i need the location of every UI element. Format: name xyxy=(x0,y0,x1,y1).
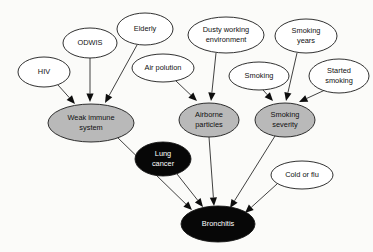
node-lung[interactable]: Lungcancer xyxy=(135,142,191,176)
node-shape-smkyears[interactable] xyxy=(275,19,337,53)
edge-line xyxy=(251,184,277,207)
node-airborne[interactable]: Airborneparticles xyxy=(179,103,239,137)
node-shape-hiv[interactable] xyxy=(18,57,70,87)
arrow-head-icon xyxy=(230,199,238,208)
edge-started-to-smksev xyxy=(299,90,325,102)
node-elderly[interactable]: Elderly xyxy=(117,13,173,45)
node-shape-airborne[interactable] xyxy=(179,103,239,137)
node-shape-smoking[interactable] xyxy=(229,62,289,90)
arrow-head-icon xyxy=(86,94,93,103)
edge-line xyxy=(209,137,213,198)
node-shape-weakimm[interactable] xyxy=(48,104,134,142)
node-odwis[interactable]: ODWIS xyxy=(63,28,117,58)
edge-smksev-to-bronch xyxy=(230,136,275,208)
node-shape-smksev[interactable] xyxy=(255,103,315,137)
edge-airpol-to-airborne xyxy=(176,81,197,101)
node-smkyears[interactable]: Smokingyears xyxy=(275,19,337,53)
node-shape-lung[interactable] xyxy=(135,142,191,176)
arrow-head-icon xyxy=(210,197,217,206)
node-weakimm[interactable]: Weak immunesystem xyxy=(48,104,134,142)
arrow-head-icon xyxy=(195,198,203,207)
node-bronch[interactable]: Bronchitis xyxy=(181,206,255,242)
edge-line xyxy=(288,53,297,93)
diagram-canvas: HIVODWISElderlyAir polutionDusty working… xyxy=(0,0,373,252)
node-shape-dusty[interactable] xyxy=(188,17,264,53)
edge-odwis-to-weakimm xyxy=(86,58,93,102)
edge-dusty-to-airborne xyxy=(208,53,216,101)
arrow-head-icon xyxy=(208,92,215,101)
node-shape-started[interactable] xyxy=(309,59,369,93)
causal-diagram: HIVODWISElderlyAir polutionDusty working… xyxy=(0,0,373,252)
edge-line xyxy=(263,90,267,95)
node-started[interactable]: Startedsmoking xyxy=(309,59,369,93)
edge-line xyxy=(177,174,198,200)
edge-lung-to-bronch xyxy=(177,174,203,207)
node-dusty[interactable]: Dusty workingenvironment xyxy=(188,17,264,53)
edge-line xyxy=(307,90,325,98)
node-smksev[interactable]: Smokingseverity xyxy=(255,103,315,137)
node-coldflu[interactable]: Cold or flu xyxy=(271,161,333,189)
edge-line xyxy=(176,81,191,95)
arrow-head-icon xyxy=(284,92,291,101)
node-airpol[interactable]: Air polution xyxy=(132,54,194,82)
node-shape-bronch[interactable] xyxy=(181,206,255,242)
nodes-layer: HIVODWISElderlyAir polutionDusty working… xyxy=(18,13,369,242)
node-shape-airpol[interactable] xyxy=(132,54,194,82)
edge-line xyxy=(58,85,69,98)
node-shape-odwis[interactable] xyxy=(63,28,117,58)
node-shape-elderly[interactable] xyxy=(117,13,173,45)
edge-hiv-to-weakimm xyxy=(58,85,75,104)
edge-line xyxy=(212,53,216,93)
edge-smoking-to-smksev xyxy=(263,90,273,101)
node-hiv[interactable]: HIV xyxy=(18,57,70,87)
edge-coldflu-to-bronch xyxy=(245,184,277,213)
node-shape-coldflu[interactable] xyxy=(271,161,333,189)
node-smoking[interactable]: Smoking xyxy=(229,62,289,90)
arrow-head-icon xyxy=(105,94,112,103)
edge-airborne-to-bronch xyxy=(209,137,217,206)
